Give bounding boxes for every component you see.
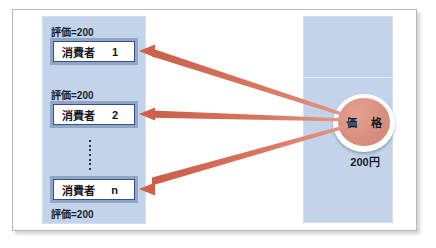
consumer-box-n[interactable]: 消費者 n [53, 179, 135, 200]
consumer-box-2-index: 2 [112, 109, 127, 121]
price-amount-label: 200円 [338, 153, 392, 169]
consumer-box-n-index: n [111, 184, 127, 196]
valuation-label-n: 評価=200 [51, 206, 94, 221]
consumer-box-2[interactable]: 消費者 2 [53, 104, 135, 125]
price-panel-seam [303, 77, 393, 78]
consumer-box-1[interactable]: 消費者 1 [53, 41, 135, 62]
vertical-ellipsis-icon [88, 140, 91, 170]
price-ellipse[interactable]: 価 格 [338, 98, 390, 146]
price-ellipse-label: 価 格 [341, 114, 386, 130]
consumer-box-n-label: 消費者 [62, 182, 95, 198]
consumer-box-2-label: 消費者 [62, 107, 95, 123]
diagram-canvas: 評価=200 評価=200 評価=200 消費者 1 消費者 2 消費者 n 価… [0, 0, 436, 248]
consumer-box-1-label: 消費者 [62, 44, 95, 60]
valuation-label-2: 評価=200 [51, 87, 94, 102]
consumer-box-1-index: 1 [112, 46, 127, 58]
valuation-label-1: 評価=200 [51, 24, 94, 39]
price-ellipse-group: 価 格 [333, 94, 395, 152]
